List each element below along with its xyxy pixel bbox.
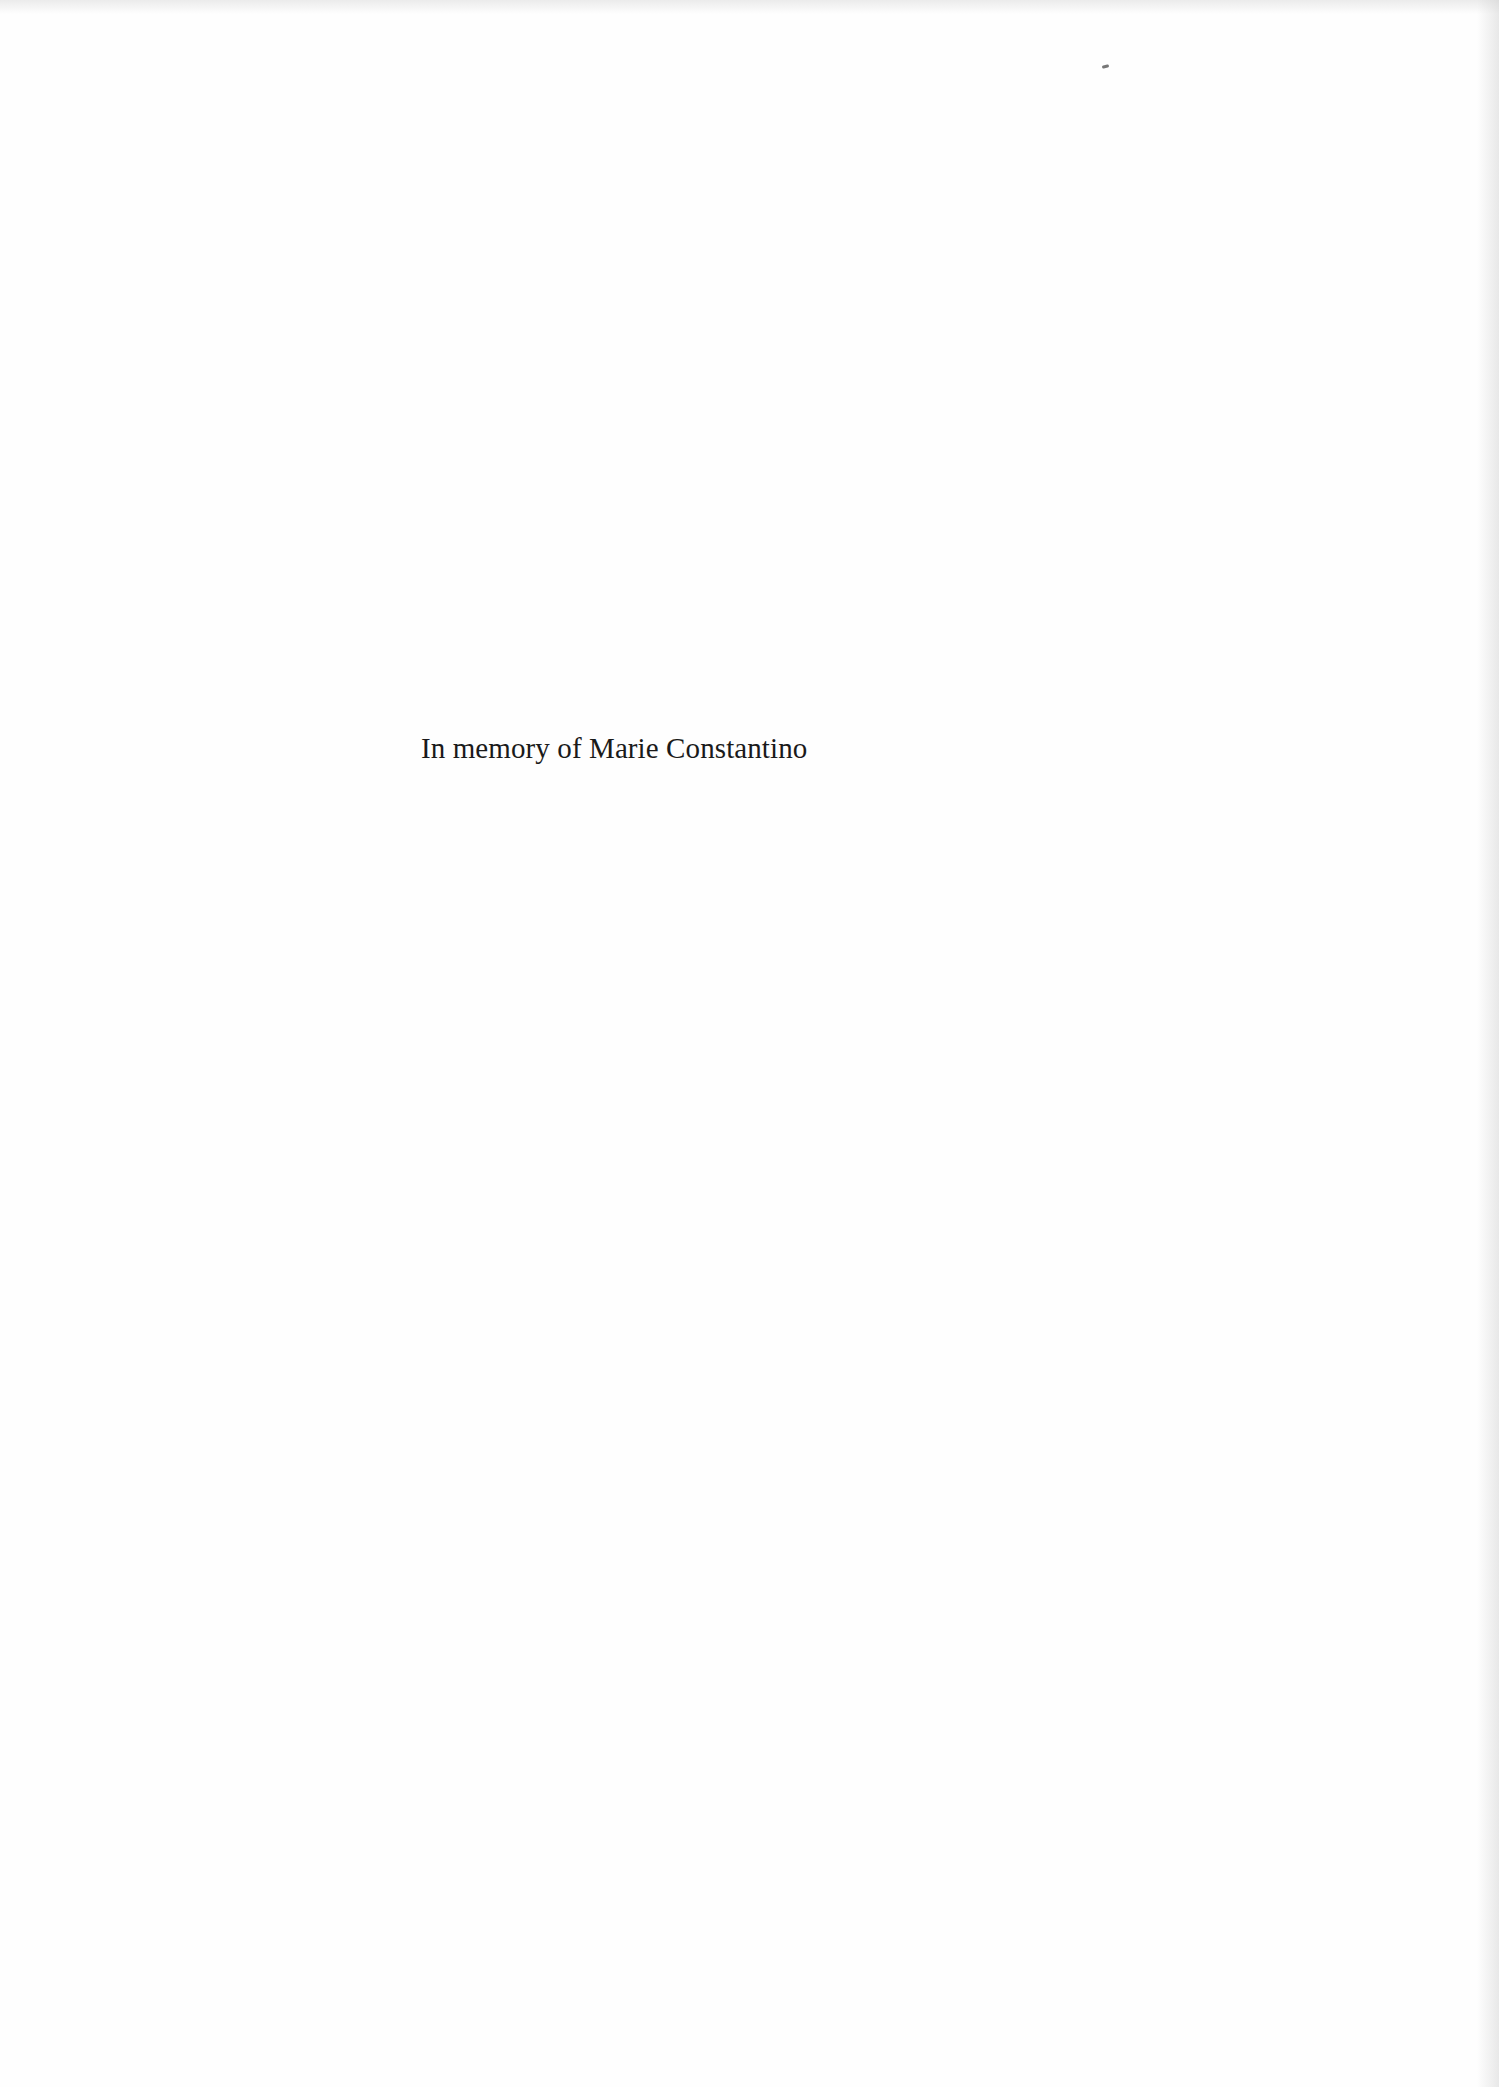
scan-edge-shadow-right: [1477, 0, 1499, 2087]
document-page: In memory of Marie Constantino: [0, 0, 1499, 2087]
dedication-text: In memory of Marie Constantino: [421, 728, 807, 768]
scan-edge-shadow-top: [0, 0, 1499, 14]
scan-speck: [1102, 64, 1109, 68]
